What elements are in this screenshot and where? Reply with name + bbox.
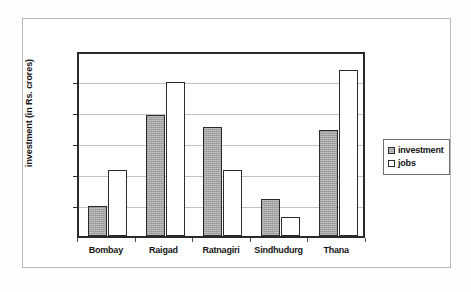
x-axis-tick-mark — [135, 238, 136, 242]
legend-swatch-investment-icon — [388, 147, 395, 154]
bar-series-container — [79, 54, 363, 236]
x-axis-tick-mark — [307, 238, 308, 242]
legend-label-investment: investment — [398, 146, 444, 155]
legend-swatch-jobs-icon — [388, 160, 395, 167]
x-axis-category-label: Bombay — [77, 245, 135, 255]
bar-jobs-thana — [339, 70, 358, 236]
x-axis-tick-mark — [192, 238, 193, 242]
chart-legend: investment jobs — [383, 139, 450, 175]
legend-item-investment: investment — [388, 144, 446, 157]
legend-item-jobs: jobs — [388, 157, 446, 170]
x-axis-category-label: Thana — [307, 245, 365, 255]
x-axis-tick-mark — [77, 238, 78, 242]
bar-jobs-sindhudurg — [281, 217, 300, 236]
y-axis-ticks: 300002500020000150001000050000 — [0, 0, 77, 292]
bar-group — [194, 54, 252, 236]
bar-group — [309, 54, 367, 236]
bar-group — [252, 54, 310, 236]
bar-investment-ratnagiri — [203, 127, 222, 236]
bar-group — [137, 54, 195, 236]
bar-jobs-bombay — [108, 170, 127, 236]
bar-investment-sindhudurg — [261, 199, 280, 236]
bar-investment-thana — [319, 130, 338, 236]
legend-label-jobs: jobs — [398, 159, 416, 168]
chart-figure: investment (in Rs. crores) 3000025000200… — [0, 0, 471, 292]
bar-group — [79, 54, 137, 236]
x-axis-tick-mark — [365, 238, 366, 242]
x-axis-category-label: Ratnagiri — [192, 245, 250, 255]
bar-investment-raigad — [146, 115, 165, 236]
bar-investment-bombay — [88, 206, 107, 236]
x-axis-tick-mark — [250, 238, 251, 242]
x-axis-category-label: Sindhudurg — [250, 245, 308, 255]
bar-jobs-raigad — [166, 82, 185, 236]
plot-area — [77, 52, 365, 238]
bar-jobs-ratnagiri — [223, 170, 242, 236]
x-axis-category-label: Raigad — [135, 245, 193, 255]
